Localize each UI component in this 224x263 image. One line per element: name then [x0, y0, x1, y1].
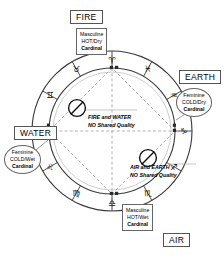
callout-water-modality: Cardinal — [10, 163, 35, 170]
sign-gemini: ♊ — [46, 90, 54, 100]
note-fire-water-line2: NO Shared Quality — [88, 121, 135, 129]
callout-air-modality: Cardinal — [126, 221, 149, 228]
sign-scorpio: ♏ — [144, 188, 152, 198]
note-fire-water: FIRE and WATER NO Shared Quality — [88, 113, 135, 129]
callout-air-quality: HOT/Wet — [126, 214, 149, 221]
sign-libra: ♎ — [108, 198, 116, 208]
sign-aries: ♈ — [108, 55, 116, 65]
callout-fire: Masculine HOT/Dry Cardinal — [76, 28, 107, 55]
note-fire-water-line1: FIRE and WATER — [88, 113, 135, 121]
sign-taurus: ♉ — [72, 64, 80, 74]
callout-air: Masculine HOT/Wet Cardinal — [122, 204, 153, 231]
callout-water: Feminine COLD/Wet Cardinal — [4, 145, 41, 174]
note-air-earth: AIR and EARTH NO Shared Quality — [130, 163, 177, 179]
element-label-air: AIR — [163, 233, 190, 247]
sign-pisces: ♓ — [144, 64, 152, 74]
element-label-water: WATER — [14, 126, 57, 140]
sign-leo: ♌ — [46, 162, 54, 172]
diagram-canvas: ♈ ♉ ♊ ♋ ♌ ♍ ♎ ♏ ♐ ♑ ♒ ♓ FIRE EARTH WATER… — [0, 0, 224, 263]
callout-air-gender: Masculine — [126, 207, 149, 214]
note-air-earth-line1: AIR and EARTH — [130, 163, 177, 171]
element-label-fire: FIRE — [70, 10, 103, 24]
sign-virgo: ♍ — [72, 188, 80, 198]
callout-earth-quality: COLD/Dry — [182, 99, 206, 106]
callout-earth-modality: Cardinal — [182, 106, 206, 113]
callout-earth-gender: Feminine — [182, 92, 206, 99]
no-entry-icon — [69, 100, 86, 117]
callout-water-gender: Feminine — [10, 149, 35, 156]
callout-earth: Feminine COLD/Dry Cardinal — [176, 88, 212, 117]
note-air-earth-line2: NO Shared Quality — [130, 171, 177, 179]
callout-fire-modality: Cardinal — [80, 45, 103, 52]
callout-fire-gender: Masculine — [80, 31, 103, 38]
callout-water-quality: COLD/Wet — [10, 156, 35, 163]
callout-fire-quality: HOT/Dry — [80, 38, 103, 45]
sign-capricorn: ♑ — [180, 126, 188, 136]
element-label-earth: EARTH — [179, 70, 221, 84]
